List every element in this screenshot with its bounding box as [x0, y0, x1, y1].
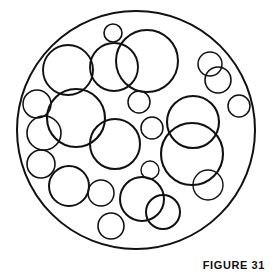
figure-caption: FIGURE 31	[203, 259, 265, 271]
circle-packing-illustration	[0, 0, 273, 279]
figure-background	[0, 0, 273, 279]
figure-container: FIGURE 31	[0, 0, 273, 279]
